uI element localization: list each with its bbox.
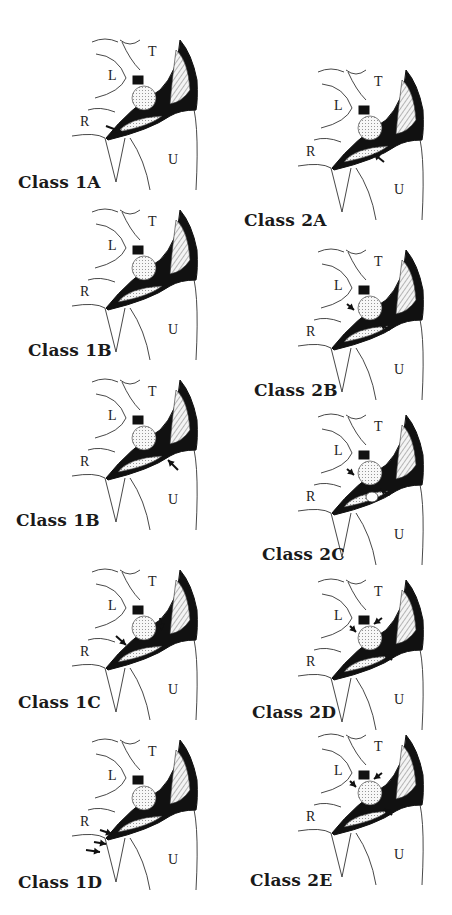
arrow-icon bbox=[94, 840, 106, 847]
lunotriquetral-ligament bbox=[359, 451, 369, 459]
wrist-illustration bbox=[226, 715, 452, 885]
radius-edge bbox=[88, 808, 115, 812]
wrist-illustration bbox=[0, 190, 226, 360]
arrow-icon bbox=[349, 625, 356, 632]
triquetrum-surface bbox=[132, 786, 156, 810]
carpal-outline bbox=[92, 39, 140, 44]
panel-class-1d: TLRU bbox=[0, 720, 200, 890]
wrist-illustration bbox=[226, 395, 452, 565]
panel-class-1b-a: TLRU bbox=[0, 190, 200, 360]
lunotriquetral-ligament bbox=[133, 606, 143, 614]
lunate-outline bbox=[321, 737, 366, 793]
panel-class-2a: TLRU bbox=[226, 50, 426, 220]
wrist-illustration bbox=[0, 720, 226, 890]
label-ulna: U bbox=[394, 847, 404, 863]
carpal-outline bbox=[92, 739, 140, 744]
label-radius: R bbox=[80, 814, 89, 830]
label-radius: R bbox=[80, 284, 89, 300]
panel-class-1b-b: TLRU bbox=[0, 360, 200, 530]
label-lunate: L bbox=[108, 768, 117, 784]
lunate-outline bbox=[321, 252, 366, 308]
lunate-outline bbox=[321, 582, 366, 638]
lunotriquetral-ligament bbox=[133, 776, 143, 784]
label-ulna: U bbox=[394, 692, 404, 708]
lunate-outline bbox=[95, 42, 140, 98]
arrow-icon bbox=[347, 468, 354, 475]
arrow-icon bbox=[347, 303, 354, 310]
carpal-outline bbox=[318, 734, 366, 739]
carpal-outline bbox=[318, 579, 366, 584]
lunate-outline bbox=[95, 742, 140, 798]
label-lunate: L bbox=[334, 98, 343, 114]
carpal-outline bbox=[318, 69, 366, 74]
radius-edge bbox=[314, 138, 341, 142]
radius-outline bbox=[298, 164, 351, 212]
arrow-icon bbox=[116, 636, 126, 645]
label-radius: R bbox=[80, 644, 89, 660]
label-triquetrum: T bbox=[148, 574, 157, 590]
label-triquetrum: T bbox=[374, 254, 383, 270]
lunate-outline bbox=[95, 572, 140, 628]
caption-class-2a: Class 2A bbox=[244, 210, 327, 230]
radius-edge bbox=[314, 803, 341, 807]
label-triquetrum: T bbox=[374, 419, 383, 435]
label-triquetrum: T bbox=[374, 74, 383, 90]
caption-class-1d: Class 1D bbox=[18, 872, 102, 892]
label-triquetrum: T bbox=[148, 744, 157, 760]
triquetrum-surface bbox=[358, 296, 382, 320]
wrist-illustration bbox=[0, 20, 226, 190]
triquetrum-surface bbox=[132, 86, 156, 110]
label-ulna: U bbox=[168, 152, 178, 168]
label-ulna: U bbox=[168, 852, 178, 868]
label-lunate: L bbox=[334, 608, 343, 624]
lunate-outline bbox=[95, 212, 140, 268]
caption-class-1b-b: Class 1B bbox=[16, 510, 100, 530]
label-lunate: L bbox=[334, 763, 343, 779]
disc-perforation bbox=[366, 492, 378, 502]
triquetrum-surface bbox=[358, 626, 382, 650]
radius-edge bbox=[88, 448, 115, 452]
label-ulna: U bbox=[394, 527, 404, 543]
label-triquetrum: T bbox=[148, 214, 157, 230]
label-lunate: L bbox=[108, 408, 117, 424]
lunotriquetral-ligament bbox=[133, 76, 143, 84]
lunotriquetral-ligament bbox=[359, 616, 369, 624]
lunate-outline bbox=[321, 72, 366, 128]
triquetrum-surface bbox=[358, 116, 382, 140]
caption-class-1a: Class 1A bbox=[18, 172, 101, 192]
lunotriquetral-ligament bbox=[133, 246, 143, 254]
label-lunate: L bbox=[334, 278, 343, 294]
label-triquetrum: T bbox=[374, 584, 383, 600]
caption-class-2e: Class 2E bbox=[250, 870, 332, 890]
label-radius: R bbox=[80, 114, 89, 130]
triquetrum-surface bbox=[132, 426, 156, 450]
caption-class-1b-a: Class 1B bbox=[28, 340, 112, 360]
label-lunate: L bbox=[108, 598, 117, 614]
arrow-icon bbox=[349, 780, 356, 787]
radius-edge bbox=[88, 108, 115, 112]
wrist-illustration bbox=[0, 360, 226, 530]
label-ulna: U bbox=[168, 682, 178, 698]
lunotriquetral-ligament bbox=[359, 106, 369, 114]
panel-class-2b: TLRU bbox=[226, 230, 426, 400]
triquetrum-surface bbox=[358, 461, 382, 485]
radius-edge bbox=[88, 638, 115, 642]
arrow-icon bbox=[86, 848, 100, 855]
label-lunate: L bbox=[334, 443, 343, 459]
caption-class-1c: Class 1C bbox=[18, 692, 101, 712]
lunotriquetral-ligament bbox=[359, 286, 369, 294]
radius-edge bbox=[314, 648, 341, 652]
panel-class-2e: TLRU bbox=[226, 715, 426, 885]
label-radius: R bbox=[306, 654, 315, 670]
carpal-outline bbox=[92, 569, 140, 574]
lunotriquetral-ligament bbox=[359, 771, 369, 779]
label-lunate: L bbox=[108, 68, 117, 84]
wrist-illustration bbox=[226, 230, 452, 400]
label-triquetrum: T bbox=[148, 384, 157, 400]
wrist-illustration bbox=[226, 50, 452, 220]
lunate-outline bbox=[321, 417, 366, 473]
carpal-outline bbox=[92, 379, 140, 384]
label-lunate: L bbox=[108, 238, 117, 254]
lunate-outline bbox=[95, 382, 140, 438]
triquetrum-surface bbox=[132, 256, 156, 280]
